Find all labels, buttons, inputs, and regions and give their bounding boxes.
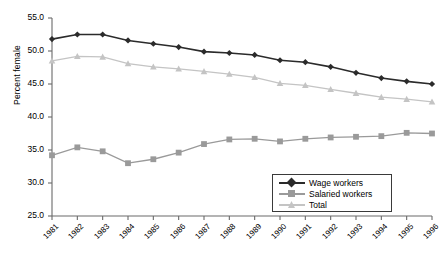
data-point-marker [74,144,80,150]
legend-label-total: Total [309,200,327,210]
data-point-marker [100,31,106,37]
y-axis-tick-label: 50.0 [10,45,44,55]
data-point-marker [150,41,156,47]
data-point-marker [226,50,232,56]
data-point-marker [328,64,334,70]
data-point-marker [150,156,156,162]
legend-label-wage-workers: Wage workers [309,178,363,188]
data-point-marker [125,160,131,166]
data-point-marker [429,131,435,137]
data-point-marker [49,36,55,42]
data-point-marker [252,52,258,58]
data-point-marker [277,57,283,63]
data-point-marker [201,141,207,147]
data-point-marker [49,152,55,158]
data-point-marker [201,49,207,55]
data-point-marker [176,150,182,156]
data-point-marker [302,136,308,142]
data-point-marker [100,148,106,154]
y-axis-tick-label: 55.0 [10,12,44,22]
data-point-marker [226,137,232,143]
y-axis-tick-label: 30.0 [10,177,44,187]
legend-item-total: Total [279,199,327,211]
data-point-marker [277,139,283,145]
data-point-marker [125,37,131,43]
data-point-marker [378,75,384,81]
y-axis-tick-label: 40.0 [10,111,44,121]
chart-container: Percent female Wage workers Salaried wor… [0,0,439,256]
data-point-marker [74,31,80,37]
chart-legend: Wage workers Salaried workers Total [272,174,392,212]
data-point-marker [353,134,359,140]
data-point-marker [328,135,334,141]
legend-marker-salaried-workers [279,189,305,199]
data-point-marker [404,130,410,136]
legend-label-salaried-workers: Salaried workers [309,189,372,199]
plot-area [0,0,439,256]
y-axis-tick-label: 25.0 [10,210,44,220]
data-point-marker [176,44,182,50]
data-point-marker [353,70,359,76]
data-point-marker [404,78,410,84]
legend-marker-total [279,200,305,210]
data-point-marker [252,136,258,142]
data-point-marker [302,59,308,65]
data-point-marker [378,133,384,139]
legend-marker-wage-workers [279,178,305,188]
y-axis-tick-label: 45.0 [10,78,44,88]
y-axis-tick-label: 35.0 [10,144,44,154]
data-point-marker [429,81,435,87]
